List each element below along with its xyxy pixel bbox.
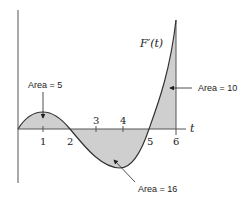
- tick-label-4: 4: [120, 115, 126, 126]
- annotation-area-5: Area = 5: [28, 80, 62, 90]
- tick-label-2: 2: [67, 136, 73, 147]
- axis-label-t: t: [190, 122, 195, 135]
- shaded-region-negative: [70, 129, 149, 168]
- function-label: F′(t): [139, 37, 163, 50]
- tick-label-3: 3: [93, 115, 99, 126]
- annotation-area-10: Area = 10: [198, 83, 237, 93]
- tick-label-5: 5: [147, 136, 153, 147]
- tick-label-1: 1: [40, 136, 46, 147]
- diagram-canvas: 1 2 3 4 5 6 t F′(t) Area = 5 Area = 10 A…: [0, 0, 244, 202]
- tick-label-6: 6: [173, 136, 179, 147]
- annotation-area-16: Area = 16: [138, 184, 177, 194]
